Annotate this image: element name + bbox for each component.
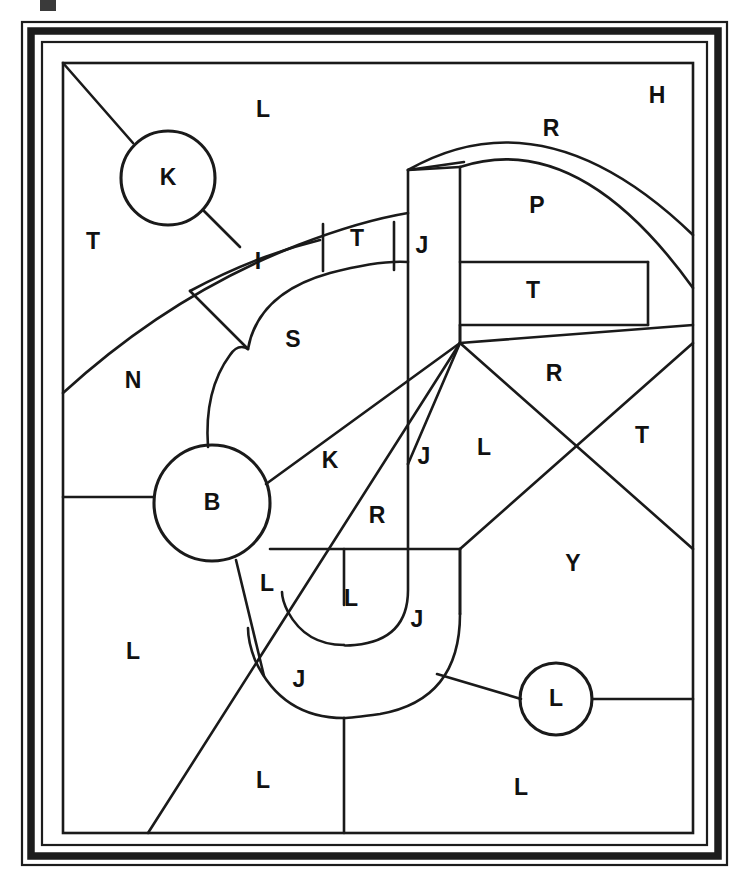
puzzle-drawing: KBL LHRPTITJTSRNKJLTRLLJYLJLL [0,0,749,887]
label-J-outer: J [293,666,306,692]
label-K-cell: K [322,447,339,473]
label-R-right: R [546,360,563,386]
label-T-box: T [526,277,540,303]
label-J-bar: J [416,232,429,258]
puzzle-worksheet-page: KBL LHRPTITJTSRNKJLTRLLJYLJLL [0,0,749,887]
label-L-mid: L [477,434,491,460]
label-L-bottom-rgt: L [514,774,528,800]
label-L-hook: L [344,585,358,611]
label-P: P [529,192,544,218]
label-L-underB: L [260,570,274,596]
label-L-top: L [256,96,270,122]
label-J-mid: J [418,443,431,469]
label-N: N [125,367,142,393]
scan-smudge [40,0,56,11]
label-R-mid: R [369,502,386,528]
label-J-inner: J [411,606,424,632]
label-R-arch: R [543,115,560,141]
label-T-right: T [635,422,649,448]
label-I: I [255,248,261,274]
label-H: H [649,82,666,108]
node-l-label: L [549,685,563,711]
node-b-label: B [204,489,221,515]
label-T-band: T [350,225,364,251]
label-L-bottom-mid: L [256,767,270,793]
label-T-left: T [86,228,100,254]
label-L-left-big: L [126,638,140,664]
node-k-label: K [160,164,177,190]
label-S: S [285,326,300,352]
label-Y: Y [565,550,580,576]
